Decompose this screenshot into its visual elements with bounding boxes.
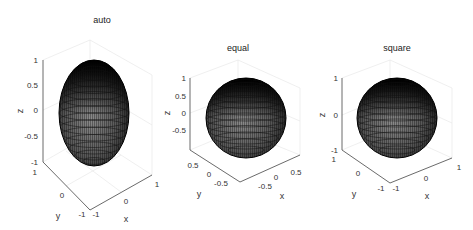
svg-text:0: 0 [207,170,212,179]
x-label-square: x [425,191,430,201]
surface-square [357,78,437,158]
x-ticks-equal: -0.5 0 0.5 [258,168,302,191]
svg-text:0.5: 0.5 [175,92,187,101]
svg-text:0.5: 0.5 [27,81,39,90]
z-label-equal: z [162,110,172,115]
y-label-equal: y [197,189,202,199]
axes-auto: auto 1 0.5 0 -0.5 -1 z 1 0 -1 y -1 0 1 x [15,15,160,224]
svg-text:0: 0 [274,173,279,182]
x-label-equal: x [280,191,285,201]
svg-text:-1: -1 [31,158,39,167]
y-label-square: y [352,189,357,199]
z-label-auto: z [15,108,25,113]
svg-text:0: 0 [334,111,339,120]
y-ticks-equal: 0.5 0 -0.5 [187,161,228,188]
svg-text:0: 0 [60,191,65,200]
axes-square: square 1 0 -1 z 1 0 -1 y -1 0 1 x [317,43,462,201]
svg-text:-0.5: -0.5 [214,179,228,188]
plot-title-square: square [383,43,411,53]
surface-equal [206,78,286,158]
svg-text:1: 1 [334,74,339,83]
z-ticks-square: 1 0 -1 [331,74,339,155]
svg-text:1: 1 [33,168,38,177]
y-label-auto: y [56,211,61,221]
svg-text:1: 1 [182,74,187,83]
svg-text:1: 1 [155,180,160,189]
svg-text:0: 0 [356,169,361,178]
x-label-auto: x [124,214,129,224]
svg-text:-1: -1 [331,146,339,155]
svg-text:0.5: 0.5 [187,161,199,170]
svg-text:-1: -1 [78,210,86,219]
svg-text:-0.5: -0.5 [258,182,272,191]
axes-equal: equal 1 0.5 0 -0.5 z 0.5 0 -0.5 y -0.5 0… [162,43,302,201]
svg-text:0: 0 [424,174,429,183]
svg-text:0: 0 [34,106,39,115]
svg-text:-1: -1 [377,184,385,193]
svg-text:1: 1 [332,155,337,164]
svg-text:-1: -1 [92,210,100,219]
plot-title-equal: equal [227,43,249,53]
surface-auto [59,60,129,166]
figure: auto 1 0.5 0 -0.5 -1 z 1 0 -1 y -1 0 1 x [0,0,473,230]
svg-text:1: 1 [457,163,462,172]
svg-text:-1: -1 [392,184,400,193]
z-ticks-equal: 1 0.5 0 -0.5 [172,74,186,135]
svg-text:-0.5: -0.5 [24,132,38,141]
plot-title-auto: auto [93,15,111,25]
svg-text:1: 1 [34,56,39,65]
svg-text:0: 0 [124,197,129,206]
svg-text:0: 0 [182,109,187,118]
z-ticks-auto: 1 0.5 0 -0.5 -1 [24,56,38,167]
svg-text:0.5: 0.5 [290,168,302,177]
svg-text:-0.5: -0.5 [172,126,186,135]
z-label-square: z [317,112,327,117]
